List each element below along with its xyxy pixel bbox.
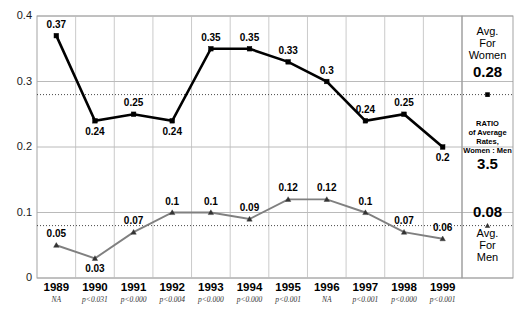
data-point-women-1994: [247, 46, 252, 51]
data-label-men-1994: 0.09: [228, 202, 272, 213]
data-label-women-1995: 0.33: [266, 45, 310, 56]
data-label-men-1995: 0.12: [266, 182, 310, 193]
avg-men-line1: Avg.: [462, 227, 513, 240]
data-label-men-1990: 0.03: [73, 263, 117, 274]
data-point-women-1995: [286, 60, 291, 65]
data-label-women-1996: 0.3: [305, 65, 349, 76]
data-point-women-1999: [440, 145, 445, 150]
yaxis-tick-0.1: 0.1: [2, 206, 32, 218]
avg-men-value: 0.08: [462, 203, 513, 220]
data-point-women-1997: [363, 119, 368, 124]
xaxis-pvalue-1999: p<0.001: [419, 295, 467, 304]
data-label-women-1989: 0.37: [34, 19, 78, 30]
data-point-women-1998: [402, 112, 407, 117]
data-point-women-1991: [131, 112, 136, 117]
xaxis-year-1999: 1999: [419, 281, 467, 293]
data-label-women-1991: 0.25: [112, 97, 156, 108]
ratio-line4: Women : Men: [462, 146, 513, 155]
chart-container: 0.370.240.250.240.350.350.330.30.240.250…: [0, 0, 516, 315]
data-point-women-1990: [93, 119, 98, 124]
data-label-men-1992: 0.1: [150, 196, 194, 207]
data-label-men-1996: 0.12: [305, 182, 349, 193]
data-label-men-1991: 0.07: [112, 215, 156, 226]
data-label-men-1999: 0.06: [421, 222, 465, 233]
data-label-women-1993: 0.35: [189, 32, 233, 43]
avg-women-line2: For: [462, 37, 513, 50]
data-label-men-1989: 0.05: [34, 228, 78, 239]
ratio-line3: Rates,: [462, 137, 513, 146]
data-label-women-1990: 0.24: [73, 126, 117, 137]
data-point-women-1996: [324, 79, 329, 84]
data-label-women-1998: 0.25: [382, 97, 426, 108]
avg-women-value: 0.28: [462, 63, 513, 80]
panel-marker-women: [485, 92, 490, 97]
data-label-women-1999: 0.2: [421, 152, 465, 163]
data-label-men-1998: 0.07: [382, 215, 426, 226]
yaxis-tick-0.2: 0.2: [2, 140, 32, 152]
avg-men-line3: Men: [462, 251, 513, 264]
data-point-women-1992: [170, 119, 175, 124]
yaxis-tick-0.3: 0.3: [2, 75, 32, 87]
data-label-women-1994: 0.35: [228, 32, 272, 43]
data-label-men-1993: 0.1: [189, 196, 233, 207]
avg-men-line2: For: [462, 239, 513, 252]
data-label-women-1992: 0.24: [150, 126, 194, 137]
avg-women-line3: Women: [462, 49, 513, 62]
yaxis-tick-0.4: 0.4: [2, 9, 32, 21]
ratio-value: 3.5: [462, 155, 513, 172]
avg-women-line1: Avg.: [462, 25, 513, 38]
ratio-line2: of Average: [462, 128, 513, 137]
data-label-women-1997: 0.24: [343, 104, 387, 115]
ratio-line1: RATIO: [462, 119, 513, 128]
yaxis-tick-0: 0: [2, 271, 32, 283]
data-point-women-1993: [209, 46, 214, 51]
data-label-men-1997: 0.1: [343, 196, 387, 207]
data-point-women-1989: [54, 33, 59, 38]
